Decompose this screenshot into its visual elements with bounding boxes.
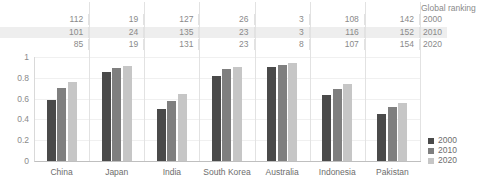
- global-ranking-table: Global ranking 112191272631081422000 101…: [0, 2, 447, 52]
- table-cell: 24: [89, 27, 144, 38]
- bar: [212, 76, 221, 161]
- table-cell: 19: [89, 14, 144, 25]
- table-row: 101241352331161522010: [0, 27, 447, 38]
- x-axis-tick-label: India: [144, 167, 199, 177]
- table-cell: 127: [144, 14, 199, 25]
- bar: [388, 107, 397, 161]
- table-cell: 108: [310, 14, 365, 25]
- y-axis-tick-label: 0: [0, 157, 29, 165]
- table-row: 85191312381071542020: [0, 39, 447, 50]
- bar-group: [255, 57, 310, 161]
- table-cell: 23: [199, 27, 254, 38]
- x-axis-tick-label: Pakistan: [365, 167, 420, 177]
- table-row-year: 2020: [420, 39, 447, 50]
- chart-legend: 200020102020: [428, 136, 488, 166]
- bar: [333, 89, 342, 161]
- bar: [57, 88, 66, 161]
- table-cell: 142: [365, 14, 420, 25]
- table-cell: 23: [199, 39, 254, 50]
- table-cell: 112: [0, 14, 89, 25]
- bar: [47, 100, 56, 161]
- table-cell: 135: [144, 27, 199, 38]
- bar-group: [144, 57, 199, 161]
- y-axis-tick-label: 1: [0, 53, 29, 61]
- y-axis-tick-label: 0.2: [0, 136, 29, 144]
- figure-root: Global ranking 112191272631081422000 101…: [0, 0, 491, 191]
- x-axis-tick-label: Japan: [89, 167, 144, 177]
- legend-item[interactable]: 2000: [428, 136, 488, 145]
- bar: [123, 66, 132, 161]
- x-axis-tick-label: Indonesia: [310, 167, 365, 177]
- table-cell: 3: [255, 14, 310, 25]
- y-axis-tick-label: 0.6: [0, 95, 29, 103]
- bar-group: [365, 57, 420, 161]
- legend-swatch-icon: [428, 148, 434, 154]
- bar: [288, 63, 297, 161]
- bar: [398, 103, 407, 161]
- legend-swatch-icon: [428, 138, 434, 144]
- table-row-year: 2000: [420, 14, 447, 25]
- bar: [377, 114, 386, 161]
- bar: [278, 65, 287, 161]
- bar-group: [34, 57, 89, 161]
- x-axis-tick-label: Australia: [255, 167, 310, 177]
- bar: [322, 95, 331, 161]
- bar-group: [310, 57, 365, 161]
- table-cell: 154: [365, 39, 420, 50]
- table-cell: 19: [89, 39, 144, 50]
- bar: [178, 94, 187, 161]
- table-cell: 131: [144, 39, 199, 50]
- legend-label: 2020: [438, 156, 457, 165]
- table-cell: 107: [310, 39, 365, 50]
- bar: [157, 109, 166, 161]
- legend-label: 2000: [438, 136, 457, 145]
- global-ranking-header: Global ranking: [420, 2, 447, 14]
- bar: [102, 72, 111, 161]
- legend-item[interactable]: 2010: [428, 146, 488, 155]
- bar-group: [199, 57, 254, 161]
- table-row: 112191272631081422000: [0, 14, 447, 25]
- bar: [68, 82, 77, 161]
- table-cell: 116: [310, 27, 365, 38]
- legend-swatch-icon: [428, 158, 434, 164]
- bar-group: [89, 57, 144, 161]
- column-separator: [420, 2, 421, 161]
- bar: [233, 67, 242, 161]
- table-cell: 152: [365, 27, 420, 38]
- table-row-year: 2010: [420, 27, 447, 38]
- bar: [343, 84, 352, 161]
- x-axis-tick-label: South Korea: [199, 167, 254, 177]
- x-axis-tick-label: China: [34, 167, 89, 177]
- bar: [112, 68, 121, 161]
- bar: [167, 101, 176, 161]
- y-axis-tick-label: 0.4: [0, 115, 29, 123]
- table-cell: 101: [0, 27, 89, 38]
- table-cell: 85: [0, 39, 89, 50]
- legend-item[interactable]: 2020: [428, 156, 488, 165]
- table-cell: 8: [255, 39, 310, 50]
- table-cell: 3: [255, 27, 310, 38]
- table-cell: 26: [199, 14, 254, 25]
- bar: [222, 69, 231, 161]
- y-axis-tick-label: 0.8: [0, 74, 29, 82]
- bar: [267, 67, 276, 161]
- table-header-row: Global ranking: [0, 2, 447, 14]
- legend-label: 2010: [438, 146, 457, 155]
